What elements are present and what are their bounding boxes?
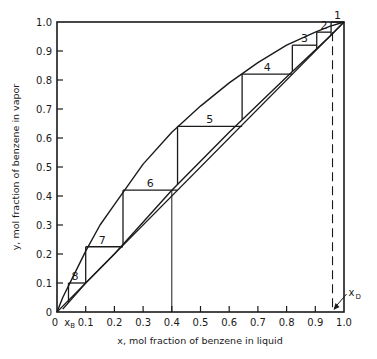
y-tick-label: 0.7 bbox=[36, 104, 52, 115]
x-tick-label: 0.8 bbox=[279, 317, 295, 328]
y-tick-label: 0.4 bbox=[36, 191, 52, 202]
xd-subscript: D bbox=[356, 293, 361, 301]
mccabe-thiele-chart: 00.10.20.30.40.50.60.70.80.91.000.10.20.… bbox=[0, 0, 377, 359]
xb-subscript: B bbox=[70, 322, 75, 330]
stage-label: 1 bbox=[334, 9, 341, 22]
stage-label: 8 bbox=[72, 270, 79, 283]
xd-arrowhead-icon bbox=[334, 303, 340, 310]
annotations: xDxB bbox=[64, 32, 361, 330]
y-tick-label: 0 bbox=[46, 307, 52, 318]
x-tick-label: 0.1 bbox=[78, 317, 94, 328]
axis-ticks: 00.10.20.30.40.50.60.70.80.91.000.10.20.… bbox=[36, 17, 352, 328]
y-tick-label: 0.3 bbox=[36, 220, 52, 231]
stage-label: 4 bbox=[264, 61, 271, 74]
y-tick-label: 0.1 bbox=[36, 278, 52, 289]
stage-label: 6 bbox=[147, 177, 154, 190]
stage-label: 3 bbox=[301, 32, 308, 45]
x-tick-label: 1.0 bbox=[336, 317, 352, 328]
x-tick-label: 0.9 bbox=[307, 317, 323, 328]
x-tick-label: 0.3 bbox=[135, 317, 151, 328]
x-tick-label: 0 bbox=[52, 317, 58, 328]
stage-label: 2 bbox=[320, 19, 327, 32]
curves bbox=[57, 22, 344, 312]
stage-label: 5 bbox=[206, 113, 213, 126]
x-tick-label: 0.5 bbox=[193, 317, 209, 328]
y-tick-label: 0.6 bbox=[36, 133, 52, 144]
stage-label: 7 bbox=[99, 234, 106, 247]
y-tick-label: 0.2 bbox=[36, 249, 52, 260]
y-tick-label: 0.8 bbox=[36, 75, 52, 86]
y-tick-label: 1.0 bbox=[36, 17, 52, 28]
x-tick-label: 0.6 bbox=[221, 317, 237, 328]
x-tick-label: 0.7 bbox=[250, 317, 266, 328]
y-tick-label: 0.9 bbox=[36, 46, 52, 57]
x-tick-label: 0.2 bbox=[106, 317, 122, 328]
x-tick-label: 0.4 bbox=[164, 317, 180, 328]
y-tick-label: 0.5 bbox=[36, 162, 52, 173]
x-axis-title: x, mol fraction of benzene in liquid bbox=[117, 335, 282, 346]
xd-label: x bbox=[349, 287, 355, 298]
diagonal-line bbox=[57, 22, 344, 312]
y-axis-title: y, mol fraction of benzene in vapor bbox=[10, 84, 21, 251]
